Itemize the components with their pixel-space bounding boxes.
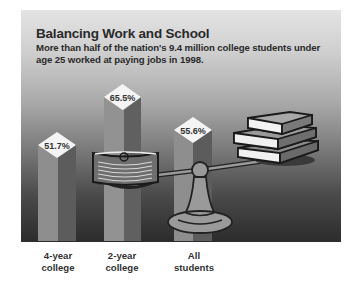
category-label-line2: college (28, 262, 88, 274)
chart-plot: 51.7% 65.5% 55.6% (0, 0, 354, 284)
category-label-line2: college (92, 262, 152, 274)
category-label-4-year-college: 4-year college (28, 250, 88, 274)
category-label-line1: 2-year (92, 250, 152, 262)
category-label-all-students: All students (164, 250, 224, 274)
category-label-line2: students (164, 262, 224, 274)
category-label-line1: All (164, 250, 224, 262)
book-stack-icon (234, 112, 318, 166)
svg-text:51.7%: 51.7% (44, 141, 70, 151)
money-stack-icon (93, 152, 158, 185)
bar-4-year-college (38, 145, 76, 241)
category-label-2-year-college: 2-year college (92, 250, 152, 274)
svg-text:65.5%: 65.5% (110, 93, 136, 103)
svg-text:55.6%: 55.6% (180, 126, 206, 136)
category-label-line1: 4-year (28, 250, 88, 262)
